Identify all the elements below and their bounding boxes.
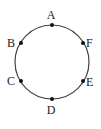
point-label-c: C	[7, 74, 15, 88]
point-label-a: A	[47, 8, 56, 22]
point-b	[19, 41, 23, 45]
point-label-d: D	[47, 103, 56, 117]
point-label-e: E	[86, 75, 93, 89]
point-c	[19, 79, 23, 83]
point-a	[50, 23, 54, 27]
point-d	[50, 97, 54, 101]
circle-diagram: ABCDEF	[0, 0, 101, 129]
point-f	[81, 41, 85, 45]
point-label-f: F	[86, 36, 93, 50]
point-label-b: B	[7, 36, 15, 50]
point-e	[81, 79, 85, 83]
circle	[15, 25, 89, 99]
